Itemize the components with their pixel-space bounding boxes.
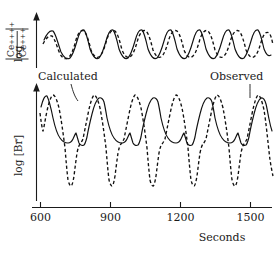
y-axis-bromide-close: ] bbox=[12, 135, 24, 139]
annotation-observed: Observed bbox=[210, 70, 263, 98]
cerium-panel-curves bbox=[43, 30, 273, 59]
oscillating-reaction-figure: log ++++ Ce +++ Ce Calculat bbox=[0, 0, 276, 258]
fraction-denominator: Ce bbox=[18, 45, 28, 57]
figure-canvas: log ++++ Ce +++ Ce Calculat bbox=[0, 0, 276, 258]
y-axis-bromide-label: log [Br − ] bbox=[12, 135, 24, 176]
x-tick-label-600: 600 bbox=[30, 211, 51, 224]
bromide-calculated-curve bbox=[41, 96, 272, 146]
x-axis-title: Seconds bbox=[199, 231, 246, 244]
x-tick-label-1200: 1200 bbox=[167, 211, 195, 224]
cerium-observed-curve bbox=[43, 30, 273, 58]
bromide-observed-curve bbox=[40, 95, 273, 186]
cerium-fraction: ++++ Ce +++ Ce bbox=[6, 21, 29, 59]
bromide-panel-curves bbox=[40, 95, 273, 186]
x-tick-label-900: 900 bbox=[100, 211, 121, 224]
y-axis-bromide-label-text: log [Br bbox=[12, 138, 24, 176]
x-axis: 600 900 1200 1500 Seconds bbox=[30, 202, 272, 244]
x-tick-label-1500: 1500 bbox=[237, 211, 265, 224]
fraction-numerator-charge: ++++ bbox=[8, 21, 16, 45]
y-axis-bromide bbox=[33, 83, 40, 201]
y-axis-cerium-label: log ++++ Ce +++ Ce bbox=[6, 21, 29, 62]
y-axis-cerium bbox=[33, 12, 40, 68]
fraction-denominator-charge: +++ bbox=[19, 27, 27, 45]
fraction-numerator: Ce bbox=[6, 45, 16, 57]
annotation-observed-label: Observed bbox=[210, 70, 263, 83]
annotation-calculated-label: Calculated bbox=[38, 70, 98, 83]
